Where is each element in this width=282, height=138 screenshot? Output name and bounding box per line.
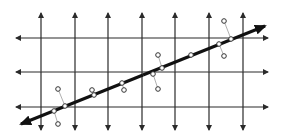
data-point bbox=[122, 88, 127, 93]
on-line-point bbox=[189, 53, 194, 58]
data-point bbox=[56, 122, 61, 127]
on-line-point bbox=[63, 104, 68, 109]
on-line-point bbox=[92, 93, 97, 98]
on-line-point bbox=[151, 72, 156, 77]
fit-line bbox=[21, 26, 265, 124]
data-point bbox=[222, 54, 227, 59]
on-line-point bbox=[229, 37, 234, 42]
on-line-point bbox=[217, 42, 222, 47]
on-line-point bbox=[52, 109, 57, 114]
data-point bbox=[156, 87, 161, 92]
data-point bbox=[90, 88, 95, 93]
projection-line bbox=[224, 21, 231, 39]
diagram-canvas bbox=[0, 0, 282, 138]
data-point bbox=[56, 87, 61, 92]
on-line-point bbox=[120, 81, 125, 86]
on-line-point bbox=[160, 66, 165, 71]
data-point bbox=[222, 19, 227, 24]
data-point bbox=[156, 53, 161, 58]
regression-diagram bbox=[0, 0, 282, 138]
